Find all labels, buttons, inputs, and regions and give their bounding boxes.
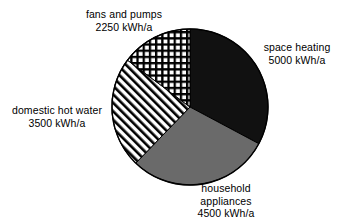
pie-label-household-appliances-name2: appliances xyxy=(176,195,276,208)
pie-label-household-appliances-value: 4500 kWh/a xyxy=(176,207,276,220)
pie-label-fans-and-pumps-value: 2250 kWh/a xyxy=(72,21,176,34)
pie-label-fans-and-pumps-name: fans and pumps xyxy=(72,8,176,21)
pie-label-household-appliances: household appliances 4500 kWh/a xyxy=(176,182,276,220)
pie-label-household-appliances-name: household xyxy=(176,182,276,195)
pie-label-space-heating-value: 5000 kWh/a xyxy=(254,54,340,67)
pie-chart: fans and pumps 2250 kWh/a space heating … xyxy=(0,0,342,222)
pie-label-space-heating-name: space heating xyxy=(254,41,340,54)
pie-label-fans-and-pumps: fans and pumps 2250 kWh/a xyxy=(72,8,176,33)
pie-label-domestic-hot-water-value: 3500 kWh/a xyxy=(4,117,110,130)
pie-label-domestic-hot-water-name: domestic hot water xyxy=(4,104,110,117)
pie-label-space-heating: space heating 5000 kWh/a xyxy=(254,41,340,66)
pie-label-domestic-hot-water: domestic hot water 3500 kWh/a xyxy=(4,104,110,129)
